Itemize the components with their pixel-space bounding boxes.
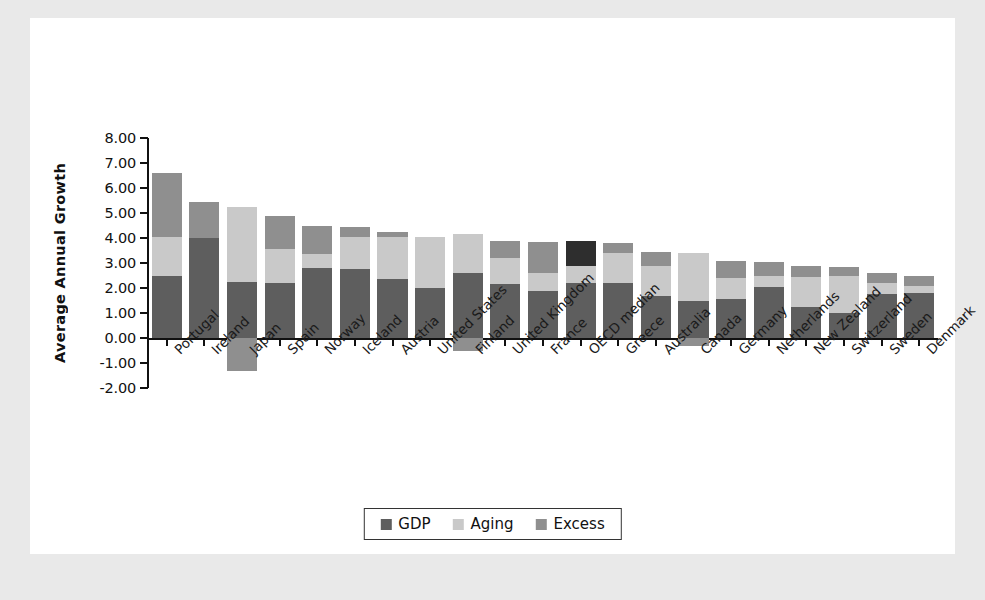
- bar-segment-excess[interactable]: [377, 232, 407, 237]
- legend-swatch-icon: [380, 519, 391, 530]
- y-tick: [140, 162, 148, 164]
- y-tick-label: 1.00: [105, 305, 137, 321]
- chart-legend: GDPAgingExcess: [363, 508, 621, 540]
- y-tick-label: 7.00: [105, 155, 137, 171]
- y-tick-label: 2.00: [105, 280, 137, 296]
- bar-segment-aging[interactable]: [302, 254, 332, 268]
- bar-segment-excess[interactable]: [829, 267, 859, 276]
- legend-swatch-icon: [453, 519, 464, 530]
- legend-item[interactable]: Excess: [536, 515, 605, 533]
- bar-segment-aging[interactable]: [603, 253, 633, 283]
- y-tick-label: 6.00: [105, 180, 137, 196]
- y-tick: [140, 362, 148, 364]
- bar-segment-aging[interactable]: [528, 273, 558, 291]
- legend-swatch-icon: [536, 519, 547, 530]
- bar-segment-excess[interactable]: [528, 242, 558, 273]
- bar-segment-aging[interactable]: [678, 253, 708, 301]
- y-tick: [140, 237, 148, 239]
- bar-segment-excess[interactable]: [641, 252, 671, 266]
- y-tick: [140, 187, 148, 189]
- bar-segment-excess[interactable]: [189, 202, 219, 238]
- plot-area: 8.007.006.005.004.003.002.001.000.00-1.0…: [148, 138, 938, 388]
- bar-segment-aging[interactable]: [377, 237, 407, 280]
- bar-segment-aging[interactable]: [265, 249, 295, 283]
- bar-segment-aging[interactable]: [340, 237, 370, 270]
- bar-segment-excess[interactable]: [791, 266, 821, 277]
- y-tick: [140, 337, 148, 339]
- bar-segment-excess[interactable]: [302, 226, 332, 255]
- y-tick-label: 3.00: [105, 255, 137, 271]
- bar-segment-aging[interactable]: [415, 237, 445, 288]
- legend-label: Excess: [554, 515, 605, 533]
- legend-item[interactable]: GDP: [380, 515, 430, 533]
- bar-segment-excess[interactable]: [603, 243, 633, 253]
- bar-segment-excess[interactable]: [716, 261, 746, 279]
- bar-segment-aging[interactable]: [152, 237, 182, 276]
- y-axis-title: Average Annual Growth: [52, 138, 68, 388]
- y-tick-label: 5.00: [105, 205, 137, 221]
- bar-segment-aging[interactable]: [490, 258, 520, 284]
- y-tick-label: -2.00: [99, 380, 136, 396]
- y-tick: [140, 387, 148, 389]
- y-tick: [140, 262, 148, 264]
- bar-segment-excess[interactable]: [152, 173, 182, 237]
- bar-segment-excess[interactable]: [754, 262, 784, 276]
- bar-segment-aging[interactable]: [716, 278, 746, 299]
- bar-segment-excess[interactable]: [867, 273, 897, 283]
- bar-segment-excess[interactable]: [340, 227, 370, 237]
- y-tick-label: 0.00: [105, 330, 137, 346]
- y-tick: [140, 287, 148, 289]
- legend-label: Aging: [471, 515, 514, 533]
- y-tick: [140, 212, 148, 214]
- bar-segment-aging[interactable]: [227, 207, 257, 282]
- bar-segment-aging[interactable]: [453, 234, 483, 273]
- y-tick-label: 4.00: [105, 230, 137, 246]
- bar-segment-aging[interactable]: [754, 276, 784, 287]
- y-tick-label: 8.00: [105, 130, 137, 146]
- y-tick-label: -1.00: [99, 355, 136, 371]
- bar-segment-excess[interactable]: [566, 241, 596, 266]
- bar-segment-excess[interactable]: [904, 276, 934, 286]
- bar-segment-gdp[interactable]: [152, 276, 182, 339]
- bar-segment-aging[interactable]: [904, 286, 934, 294]
- y-tick: [140, 137, 148, 139]
- y-tick: [140, 312, 148, 314]
- legend-label: GDP: [398, 515, 430, 533]
- bar-segment-excess[interactable]: [265, 216, 295, 250]
- chart-figure: Average Annual Growth 8.007.006.005.004.…: [30, 18, 955, 554]
- legend-item[interactable]: Aging: [453, 515, 514, 533]
- bar-segment-excess[interactable]: [490, 241, 520, 259]
